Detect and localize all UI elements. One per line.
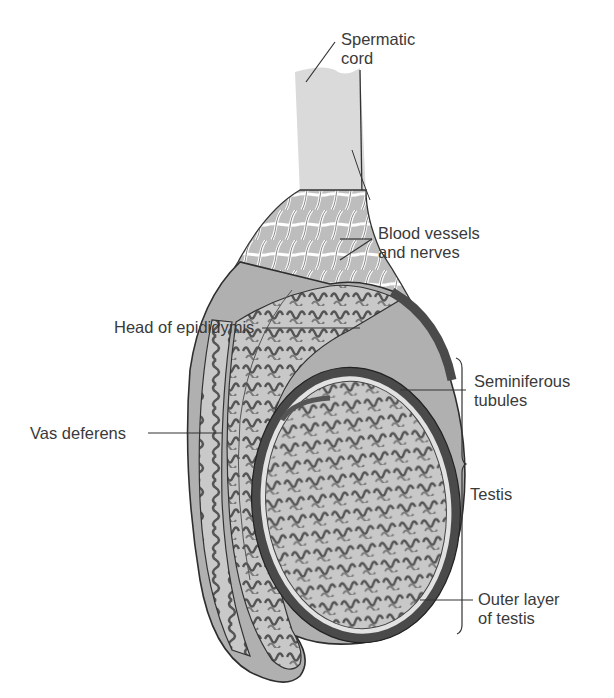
label-head-of-epididymis: Head of epididymis (114, 318, 254, 337)
label-spermatic-cord: Spermatic cord (341, 30, 415, 68)
label-testis: Testis (470, 485, 512, 504)
label-blood-vessels: Blood vessels and nerves (378, 224, 480, 262)
label-outer-layer-of-testis: Outer layer of testis (478, 590, 560, 628)
label-seminiferous-tubules: Seminiferous tubules (474, 372, 570, 410)
spermatic-cord-shape (295, 67, 370, 200)
label-vas-deferens: Vas deferens (30, 424, 126, 443)
